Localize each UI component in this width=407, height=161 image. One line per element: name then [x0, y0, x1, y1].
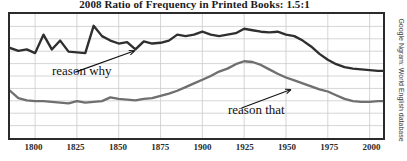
source-credit-text: Google Ngram: World English database [398, 18, 405, 141]
annotation-label-reason-that: reason that [228, 102, 285, 118]
x-tick-label-1950: 1950 [278, 142, 296, 152]
x-tick-label-1850: 1850 [109, 142, 127, 152]
x-tick-label-1975: 1975 [320, 142, 338, 152]
chart-title: 2008 Ratio of Frequency in Printed Books… [0, 0, 389, 10]
x-tick-label-1925: 1925 [236, 142, 254, 152]
x-tick-label-1875: 1875 [151, 142, 169, 152]
x-tick-label-1825: 1825 [67, 142, 85, 152]
x-axis: 180018251850187519001925195019752000 [8, 142, 385, 156]
x-tick-label-2000: 2000 [363, 142, 381, 152]
ngram-chart-figure: 2008 Ratio of Frequency in Printed Books… [0, 0, 407, 161]
x-tick-label-1800: 1800 [24, 142, 42, 152]
source-credit: Google Ngram: World English database [394, 10, 407, 150]
annotation-label-reason-why: reason why [52, 63, 112, 79]
x-tick-label-1900: 1900 [193, 142, 211, 152]
